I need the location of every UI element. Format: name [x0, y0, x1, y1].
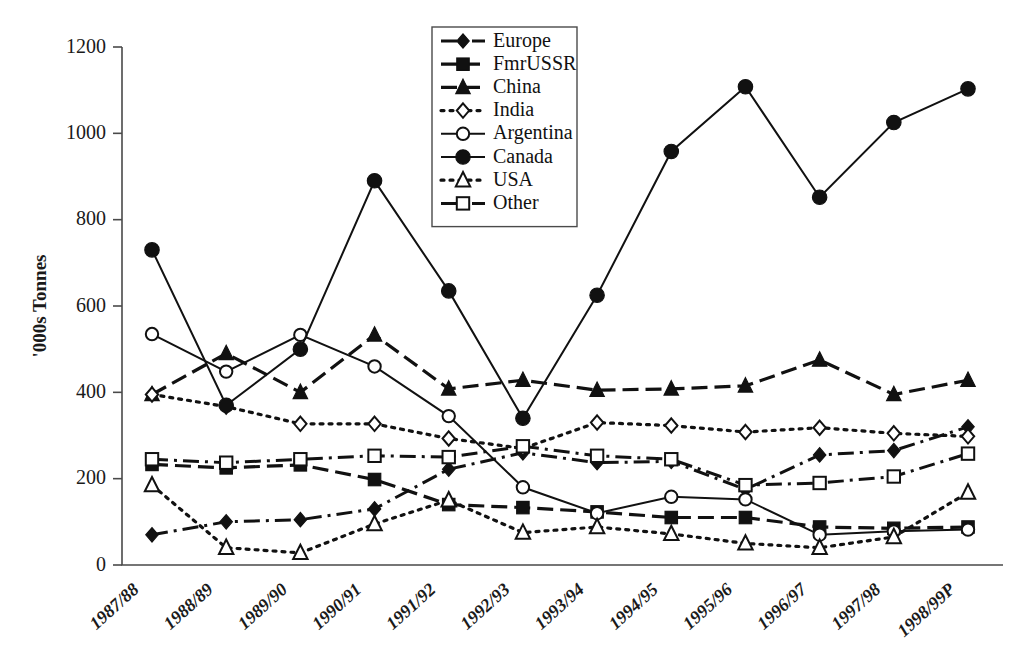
data-point-marker [442, 284, 456, 298]
data-point-marker [665, 491, 677, 503]
data-point-marker [888, 443, 900, 457]
series-fmrussr [146, 458, 974, 534]
x-axis-tick-label: 1992/93 [456, 579, 513, 633]
y-axis-tick-label: 0 [96, 553, 106, 575]
x-axis-tick-label: 1988/89 [160, 579, 217, 633]
y-axis-tick-label: 1000 [66, 121, 106, 143]
data-point-marker [665, 511, 677, 523]
data-point-marker [813, 421, 825, 435]
x-axis-tick-label: 1994/95 [605, 579, 662, 633]
data-point-marker [665, 453, 677, 465]
data-point-marker [517, 481, 529, 493]
data-point-marker [739, 511, 751, 523]
data-point-marker [739, 479, 751, 491]
data-point-marker [219, 398, 233, 412]
y-axis-tick-label: 400 [76, 380, 106, 402]
data-point-marker [665, 418, 677, 432]
series-usa [145, 477, 975, 559]
data-point-marker [294, 417, 306, 431]
data-point-marker [294, 512, 306, 526]
data-point-marker [664, 526, 678, 540]
series-line-europe [152, 427, 968, 535]
data-point-marker [294, 453, 306, 465]
data-point-marker [812, 190, 826, 204]
data-point-marker [591, 415, 603, 429]
y-axis-tick-label: 200 [76, 466, 106, 488]
data-point-marker [145, 243, 159, 257]
data-point-marker [457, 197, 469, 209]
chart-legend: EuropeFmrUSSRChinaIndiaArgentinaCanadaUS… [432, 27, 577, 227]
series-line-usa [152, 485, 968, 553]
series-china [145, 327, 975, 401]
data-point-marker [457, 58, 469, 70]
data-point-marker [146, 328, 158, 340]
legend-label: China [493, 75, 541, 97]
data-point-marker [456, 150, 470, 164]
data-point-marker [888, 426, 900, 440]
data-point-marker [220, 456, 232, 468]
y-axis-tick-label: 1200 [66, 35, 106, 57]
data-point-marker [961, 484, 975, 498]
y-axis-tick-label: 600 [76, 294, 106, 316]
data-point-marker [813, 477, 825, 489]
data-point-marker [738, 80, 752, 94]
data-point-marker [368, 473, 380, 485]
data-point-marker [443, 410, 455, 422]
data-point-marker [293, 342, 307, 356]
data-point-marker [220, 515, 232, 529]
y-axis-tick-label: 800 [76, 207, 106, 229]
data-point-marker [591, 450, 603, 462]
legend-label: India [493, 98, 534, 120]
series-line-india [152, 394, 968, 448]
x-axis-tick-label: 1996/97 [753, 578, 811, 633]
legend-label: FmrUSSR [493, 52, 577, 74]
data-point-marker [367, 327, 381, 341]
data-point-marker [146, 528, 158, 542]
legend-label: USA [493, 168, 534, 190]
x-axis-tick-label: 1993/94 [531, 579, 588, 633]
legend-label: Europe [493, 29, 551, 52]
data-point-marker [962, 429, 974, 443]
data-point-marker [367, 174, 381, 188]
data-point-marker [739, 425, 751, 439]
legend-label: Canada [493, 145, 553, 167]
series-india [146, 387, 974, 455]
series-line-fmrussr [152, 464, 968, 528]
data-point-marker [813, 448, 825, 462]
data-point-marker [888, 470, 900, 482]
data-point-marker [219, 345, 233, 359]
data-point-marker [962, 447, 974, 459]
x-axis-tick-label: 1991/92 [382, 579, 439, 633]
data-point-marker [739, 493, 751, 505]
data-point-marker [962, 523, 974, 535]
legend-label: Argentina [493, 121, 573, 144]
data-point-marker [220, 365, 232, 377]
x-axis-tick-label: 1998/99P [893, 578, 959, 640]
x-axis-tick-label: 1989/90 [234, 579, 291, 633]
data-point-marker [961, 372, 975, 386]
series-line-china [152, 335, 968, 395]
x-axis-tick-label: 1997/98 [827, 579, 884, 633]
x-axis-tick-label: 1995/96 [679, 579, 736, 633]
data-point-marker [368, 417, 380, 431]
data-point-marker [443, 431, 455, 445]
data-point-marker [146, 453, 158, 465]
data-point-marker [516, 411, 530, 425]
data-point-marker [457, 128, 469, 140]
data-point-marker [145, 477, 159, 491]
chart-canvas: 020040060080010001200'000s Tonnes1987/88… [0, 0, 1019, 670]
y-axis-title: '000s Tonnes [29, 255, 50, 358]
x-axis-tick-label: 1987/88 [85, 579, 142, 633]
data-point-marker [517, 440, 529, 452]
line-chart: 020040060080010001200'000s Tonnes1987/88… [0, 0, 1019, 670]
x-axis-tick-label: 1990/91 [308, 579, 365, 633]
data-point-marker [812, 352, 826, 366]
data-point-marker [664, 144, 678, 158]
data-point-marker [517, 501, 529, 513]
legend-label: Other [493, 191, 539, 213]
data-point-marker [368, 450, 380, 462]
data-point-marker [443, 451, 455, 463]
data-point-marker [368, 360, 380, 372]
data-point-marker [887, 115, 901, 129]
data-point-marker [590, 288, 604, 302]
